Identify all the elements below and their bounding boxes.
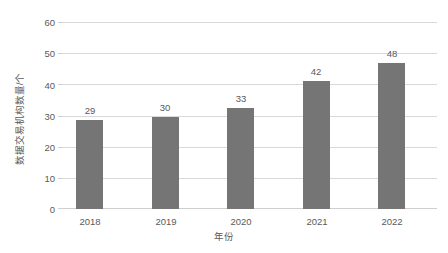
bar-2021[interactable]: [303, 81, 330, 209]
y-axis-title: 数据交易机构数量/个: [13, 19, 27, 219]
gridline-60: [62, 22, 437, 23]
bar-chart: 数据交易机构数量/个 60 50 40 30 20 10 0 29 30 33: [0, 0, 448, 253]
y-tick-label-10: 10: [29, 174, 55, 184]
axis-tick-10: [58, 178, 62, 179]
axis-tick-20: [58, 147, 62, 148]
axis-tick-0: [58, 208, 62, 209]
y-tick-label-60: 60: [29, 18, 55, 28]
axis-tick-40: [58, 84, 62, 85]
y-tick-label-50: 50: [29, 49, 55, 59]
x-tick-label-2018: 2018: [60, 216, 120, 227]
x-tick-label-2020: 2020: [211, 216, 271, 227]
x-tick-label-2021: 2021: [287, 216, 347, 227]
x-tick-label-2019: 2019: [136, 216, 196, 227]
y-tick-label-30: 30: [29, 112, 55, 122]
bar-2022[interactable]: [378, 63, 405, 209]
bar-2020[interactable]: [227, 108, 254, 209]
bar-2018[interactable]: [76, 120, 103, 209]
plot-area: 29 30 33 42 48: [62, 22, 437, 209]
axis-tick-60: [58, 22, 62, 23]
bar-value-2018: 29: [70, 105, 110, 116]
bar-2019[interactable]: [152, 117, 179, 209]
y-tick-label-40: 40: [29, 81, 55, 91]
bar-value-2020: 33: [221, 93, 261, 104]
x-tick-label-2022: 2022: [362, 216, 422, 227]
bar-value-2022: 48: [372, 48, 412, 59]
axis-tick-50: [58, 53, 62, 54]
axis-tick-30: [58, 116, 62, 117]
y-tick-label-0: 0: [29, 205, 55, 215]
bar-value-2019: 30: [145, 102, 185, 113]
y-tick-label-20: 20: [29, 143, 55, 153]
x-axis-title: 年份: [0, 231, 448, 243]
bar-value-2021: 42: [296, 66, 336, 77]
